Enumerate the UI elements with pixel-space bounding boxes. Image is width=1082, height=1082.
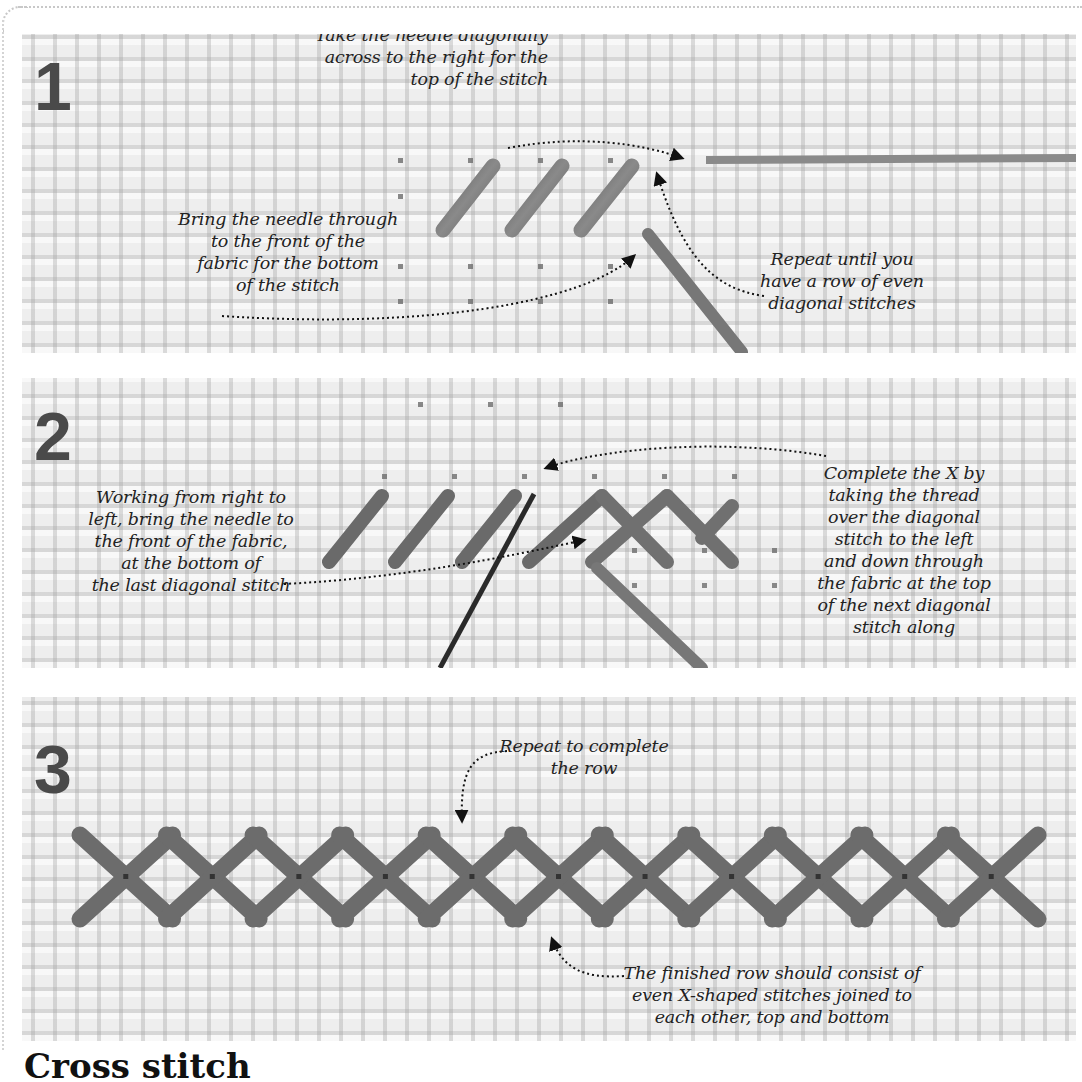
step-3-panel: 3 Repeat to complete the row The finishe… <box>22 697 1076 1041</box>
annotation-needle-diagonal: Take the needle diagonally across to the… <box>248 34 548 90</box>
completed-x-stitches-icon <box>592 496 732 562</box>
step-1-panel: 1 Take the needle <box>22 34 1076 353</box>
annotation-repeat-complete: Repeat to complete the row <box>484 735 684 779</box>
annotation-finished-row: The finished row should consist of even … <box>602 962 942 1028</box>
page-border-left <box>2 20 4 1050</box>
annotation-repeat-row: Repeat until you have a row of even diag… <box>742 248 942 314</box>
annotation-right-to-left: Working from right to left, bring the ne… <box>80 486 302 596</box>
thread-icon <box>648 234 742 352</box>
leader-arrow-icon <box>508 141 682 158</box>
page-border-top <box>18 6 1082 8</box>
annotation-complete-x: Complete the X by taking the thread over… <box>804 462 1004 638</box>
thread-icon <box>597 568 702 668</box>
page-border-corner <box>2 6 28 32</box>
diagonal-stitches-icon <box>443 166 632 230</box>
step-2-panel: 2 Working from right to l <box>22 378 1076 668</box>
diagonal-stitches-icon <box>329 496 602 562</box>
leader-arrow-icon <box>546 447 826 468</box>
page-title: Cross stitch <box>24 1046 251 1082</box>
annotation-bring-through: Bring the needle through to the front of… <box>168 208 408 296</box>
needle-icon <box>706 158 1076 160</box>
